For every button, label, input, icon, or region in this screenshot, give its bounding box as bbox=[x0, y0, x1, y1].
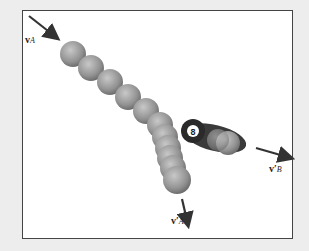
label-vpa: v′A bbox=[171, 215, 184, 226]
arrow-vpb bbox=[256, 148, 291, 158]
collision-diagram: 8 bbox=[0, 0, 309, 251]
label-va: vA bbox=[25, 34, 35, 45]
ball-b-path: 8 bbox=[181, 118, 249, 159]
ball-b-number: 8 bbox=[190, 127, 195, 137]
ball-a-path bbox=[60, 41, 173, 138]
label-vpb: v′B bbox=[269, 163, 282, 174]
